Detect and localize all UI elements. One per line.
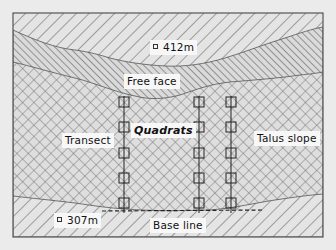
talus-slope-label: Talus slope: [254, 131, 320, 146]
talus-slope-text: Talus slope: [257, 132, 317, 144]
elevation-bottom-label: 307m: [54, 213, 101, 228]
survey-point-icon: [153, 44, 158, 49]
quadrats-text: Quadrats: [134, 124, 193, 137]
base-line-label: Base line: [150, 218, 206, 233]
elevation-bottom-value: 307m: [67, 214, 98, 226]
free-face-text: Free face: [127, 75, 177, 87]
survey-point-icon: [57, 217, 62, 222]
transect-text: Transect: [65, 134, 111, 146]
base-line-text: Base line: [153, 219, 203, 231]
free-face-label: Free face: [124, 74, 180, 89]
transect-label: Transect: [62, 133, 114, 148]
quadrats-label: Quadrats: [131, 123, 196, 138]
elevation-top-value: 412m: [163, 41, 194, 53]
elevation-top-label: 412m: [150, 40, 197, 55]
